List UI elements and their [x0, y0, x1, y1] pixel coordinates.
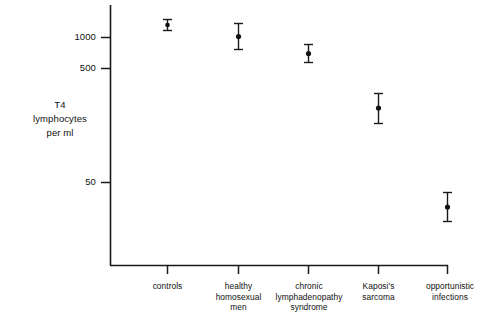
y-tick-marks: [101, 38, 110, 183]
x-tick-label-chronic-line-3: syndrome: [260, 302, 358, 313]
data-point-controls: [163, 19, 172, 31]
chart-canvas: [0, 0, 503, 327]
data-point-healthy-homosexual-men: [234, 23, 243, 50]
y-tick-label-1000: 1000: [50, 31, 96, 42]
x-tick-marks: [168, 265, 448, 274]
x-tick-label-opportunistic-line-1: opportunistic: [408, 281, 492, 292]
x-tick-label-kaposis-sarcoma: Kaposi's sarcoma: [343, 281, 414, 302]
y-axis-title: T4 lymphocytes per ml: [18, 98, 102, 140]
y-tick-label-500: 500: [50, 62, 96, 73]
data-point-kaposis-sarcoma: [374, 93, 383, 124]
y-tick-label-50: 50: [50, 176, 96, 187]
chart-figure: 1000 500 50 T4 lymphocytes per ml contro…: [0, 0, 503, 327]
x-tick-label-opportunistic-infections: opportunistic infections: [408, 281, 492, 302]
x-tick-label-kaposis-line-2: sarcoma: [343, 292, 414, 303]
x-tick-label-kaposis-line-1: Kaposi's: [343, 281, 414, 292]
y-axis-title-line-2: lymphocytes: [18, 112, 102, 126]
data-point-chronic-lymphadenopathy-syndrome: [304, 44, 313, 63]
y-axis-title-line-3: per ml: [18, 126, 102, 140]
x-tick-label-opportunistic-line-2: infections: [408, 292, 492, 303]
data-point-opportunistic-infections: [443, 192, 452, 222]
y-axis-title-line-1: T4: [18, 98, 102, 112]
